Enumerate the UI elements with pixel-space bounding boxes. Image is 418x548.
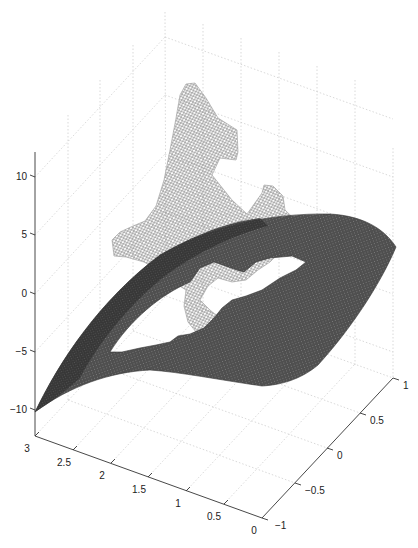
z-tick-label: 5 [21,229,27,240]
y-axis-ticks: −1 −0.5 0 0.5 1 [262,378,409,531]
z-tick-label: −5 [16,346,28,357]
x-tick-label: 1.5 [132,484,146,495]
x-axis-ticks: 3 2.5 2 1.5 1 0.5 0 [24,432,257,536]
z-tick-label: 10 [16,171,28,182]
y-tick-label: −1 [275,520,287,531]
x-tick-label: 0.5 [207,511,221,522]
y-tick-label: −0.5 [305,485,325,496]
y-tick-label: 0.5 [370,415,384,426]
x-tick-label: 0 [251,525,257,536]
x-tick-label: 2.5 [57,457,71,468]
y-tick-label: 1 [403,380,409,391]
y-tick-label: 0 [337,450,343,461]
x-tick-label: 2 [99,470,105,481]
3d-scatter-plot: 10 5 0 −5 −10 3 2.5 2 1.5 1 0.5 0 [0,0,418,548]
z-axis-ticks: 10 5 0 −5 −10 [10,171,35,415]
x-tick-label: 3 [24,443,30,454]
z-tick-label: 0 [21,288,27,299]
z-tick-label: −10 [10,404,27,415]
x-tick-label: 1 [175,498,181,509]
